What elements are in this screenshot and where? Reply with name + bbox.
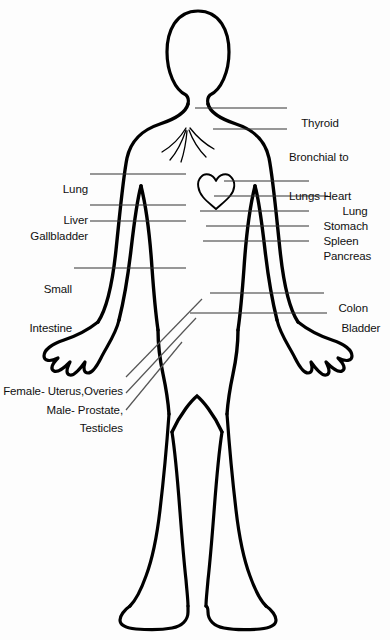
head-outline (167, 11, 229, 104)
hip-right-outline (227, 330, 238, 414)
leader-testicles (126, 342, 182, 410)
anatomy-diagram: Thyroid Bronchial to Lungs Heart Lung St… (0, 0, 390, 640)
label-pancreas: Pancreas (311, 237, 371, 276)
right-arm-inner-outline (255, 186, 277, 320)
leader-male-organs (126, 318, 196, 393)
label-lung-left-text: Lung (63, 183, 88, 195)
right-foot-outline (206, 606, 276, 630)
label-small-intestine-line2: Intestine (29, 322, 72, 335)
crotch-outline (172, 396, 222, 432)
label-bronchial-line1: Bronchial to (289, 151, 349, 164)
label-bladder: Bladder (329, 309, 380, 348)
bronchial-tree-icon (162, 128, 214, 162)
left-foot-outline (120, 606, 188, 630)
left-leg-outer-outline (130, 414, 169, 606)
heart-icon (198, 174, 234, 209)
label-bladder-text: Bladder (341, 322, 380, 334)
right-torso-side-outline (238, 186, 255, 330)
left-leg-inner-outline (172, 432, 188, 606)
label-testicles-text: Testicles (80, 422, 123, 434)
label-testicles: Testicles (68, 409, 123, 448)
right-leg-outer-outline (227, 414, 266, 606)
right-leg-inner-outline (206, 432, 222, 606)
left-torso-side-outline (141, 186, 158, 330)
label-pancreas-text: Pancreas (323, 250, 371, 262)
leader-female-organs (126, 299, 202, 377)
label-small-intestine-line1: Small (29, 283, 72, 296)
torso-left-outline (98, 104, 188, 322)
label-small-intestine: Small Intestine (29, 257, 72, 361)
torso-right-outline (208, 104, 298, 322)
left-arm-inner-outline (119, 186, 141, 320)
leader-lines-reproductive (126, 299, 202, 410)
label-gallbladder-text: Gallbladder (30, 230, 88, 242)
label-gallbladder: Gallbladder (18, 217, 88, 256)
